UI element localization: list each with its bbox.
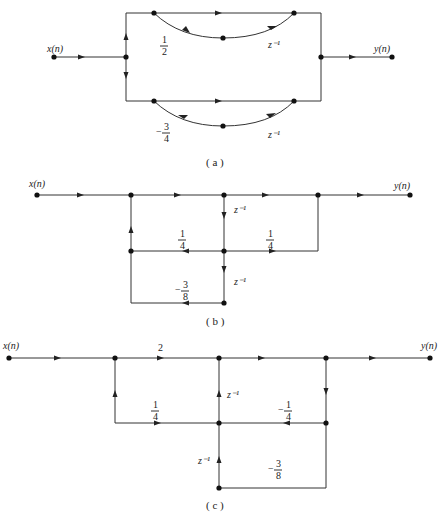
coef-denominator: 4 (153, 411, 158, 422)
node (291, 10, 296, 15)
coef-numerator: 1 (162, 34, 167, 45)
delay-label: z⁻¹ (226, 389, 239, 400)
node (151, 98, 156, 103)
node (112, 355, 117, 360)
coef-numerator: 3 (276, 458, 281, 469)
coef-denominator: 8 (276, 470, 281, 481)
output-node (407, 192, 412, 197)
delay-label: z⁻¹ (233, 276, 246, 287)
arrow-icon (157, 356, 164, 361)
coef-denominator: 4 (286, 411, 291, 422)
input-label: x(n) (28, 178, 46, 190)
node (220, 35, 225, 40)
output-node (389, 54, 394, 59)
delay-label: z⁻¹ (197, 455, 210, 466)
node (216, 355, 221, 360)
coef-numerator: 1 (153, 399, 158, 410)
arrow-icon (357, 193, 364, 198)
coef-denominator: 8 (183, 291, 188, 302)
coef-sign: − (268, 463, 274, 474)
node (315, 192, 320, 197)
arrow-icon (217, 456, 222, 463)
arrow-icon (215, 99, 222, 104)
arrow-icon (54, 356, 61, 361)
arrow-icon (124, 72, 129, 79)
node (128, 192, 133, 197)
coef-numerator: 1 (286, 399, 291, 410)
node (291, 98, 296, 103)
input-node (51, 54, 56, 59)
coef-sign: − (175, 284, 181, 295)
diagram-b: x(n) y(n) z⁻¹ z⁻¹ 1 4 1 4 − 3 8 ( b ) (28, 178, 413, 328)
node (318, 54, 323, 59)
arrow-icon (222, 212, 227, 219)
caption-b: ( b ) (206, 315, 225, 328)
coef-denominator: 4 (268, 240, 273, 251)
delay-label: z⁻¹ (267, 129, 280, 140)
arrow-icon (78, 55, 85, 60)
coef-denominator: 4 (164, 133, 169, 144)
coef-sign: − (278, 404, 284, 415)
node (151, 10, 156, 15)
coef-numerator: 1 (180, 228, 185, 239)
output-label: y(n) (420, 340, 438, 352)
arrow-icon (129, 226, 134, 233)
coef-denominator: 2 (162, 46, 167, 57)
node (123, 54, 128, 59)
arrow-icon (258, 356, 265, 361)
delay-label: z⁻¹ (267, 39, 280, 50)
arrow-icon (369, 356, 376, 361)
diagram-c: x(n) y(n) 2 z⁻¹ z⁻¹ 1 4 − 1 4 − 3 8 ( c … (2, 340, 438, 512)
node (128, 248, 133, 253)
arrow-icon (77, 193, 84, 198)
arrow-icon (349, 55, 356, 60)
input-label: x(n) (46, 43, 64, 55)
signal-flow-graphs: x(n) y(n) 1 2 z⁻¹ − 3 4 z⁻¹ ( a ) (0, 0, 441, 516)
node (221, 300, 226, 305)
coef-numerator: 3 (183, 279, 188, 290)
delay-label: z⁻¹ (233, 204, 246, 215)
arrow-icon (215, 11, 222, 16)
coef-sign: − (156, 126, 162, 137)
arrow-icon (174, 193, 181, 198)
input-label: x(n) (2, 340, 20, 352)
input-node (6, 355, 11, 360)
diagram-a: x(n) y(n) 1 2 z⁻¹ − 3 4 z⁻¹ ( a ) (46, 10, 395, 169)
coef-numerator: 3 (164, 121, 169, 132)
arrow-icon (262, 193, 269, 198)
caption-c: ( c ) (206, 499, 224, 512)
arrow-icon (124, 33, 129, 40)
arrow-icon (222, 266, 227, 273)
node (323, 420, 328, 425)
node (220, 123, 225, 128)
coef-numerator: 1 (268, 228, 273, 239)
output-node (427, 355, 432, 360)
node (216, 485, 221, 490)
arrow-icon (217, 390, 222, 397)
arrow-icon (113, 390, 118, 397)
arrow-icon (267, 26, 277, 30)
node (216, 420, 221, 425)
node (221, 192, 226, 197)
gain-label: 2 (158, 342, 163, 353)
arrow-icon (324, 388, 329, 395)
node (323, 355, 328, 360)
output-label: y(n) (373, 43, 391, 55)
coef-denominator: 4 (180, 240, 185, 251)
node (221, 248, 226, 253)
caption-a: ( a ) (206, 156, 224, 169)
input-node (34, 192, 39, 197)
output-label: y(n) (393, 180, 411, 192)
